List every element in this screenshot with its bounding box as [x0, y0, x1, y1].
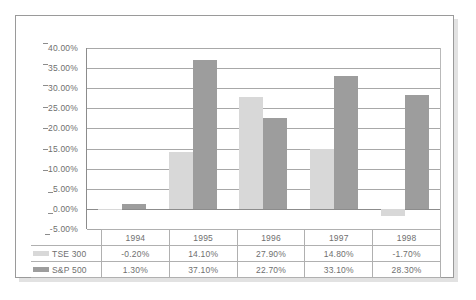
legend-swatch-icon [33, 251, 49, 256]
y-axis-tick-label: 40.00% [48, 43, 78, 53]
plot-area [86, 48, 441, 229]
bar-1995-s-p-500 [193, 60, 217, 209]
bar-group-1994 [87, 48, 158, 229]
table-cell-value: 37.10% [169, 262, 237, 278]
y-axis-tick [43, 170, 48, 171]
y-axis-tick-label: 20.00% [48, 123, 78, 133]
table-cell-value: 14.10% [169, 246, 237, 262]
y-axis-tick-label: 0.00% [53, 204, 78, 214]
table-header-1998: 1998 [373, 230, 441, 246]
bar-1995-tse-300 [169, 152, 193, 209]
table-cell-value: 27.90% [237, 246, 305, 262]
data-table: 19941995199619971998 TSE 300 -0.20%14.10… [31, 229, 441, 278]
y-axis-tick [48, 192, 53, 193]
bar-group-1998 [369, 48, 440, 229]
y-axis-tick-label: 30.00% [48, 83, 78, 93]
bar-1994-s-p-500 [122, 204, 146, 209]
table-cell-value: 14.80% [305, 246, 373, 262]
bar-group-1995 [158, 48, 229, 229]
y-axis-tick [43, 64, 48, 65]
y-axis-tick [43, 107, 48, 108]
table-row: S&P 500 1.30%37.10%22.70%33.10%28.30% [31, 262, 441, 278]
table-cell-value: 28.30% [373, 262, 441, 278]
legend-label-series1: S&P 500 [52, 265, 87, 275]
y-axis-tick [43, 85, 48, 86]
table-header-1996: 1996 [237, 230, 305, 246]
y-axis-tick-label: 5.00% [53, 184, 78, 194]
table-cell-value: 33.10% [305, 262, 373, 278]
y-axis-tick [43, 149, 48, 150]
legend-item-series0: TSE 300 [31, 246, 102, 262]
table-cell-value: 22.70% [237, 262, 305, 278]
chart-screenshot: 40.00%35.00%30.00%25.00%20.00%15.00%10.0… [0, 0, 476, 300]
bar-group-1997 [299, 48, 370, 229]
y-axis-tick [48, 213, 53, 214]
bar-1996-tse-300 [239, 97, 263, 209]
table-header-1997: 1997 [305, 230, 373, 246]
legend-item-series1: S&P 500 [31, 262, 102, 278]
plot-wrapper: 40.00%35.00%30.00%25.00%20.00%15.00%10.0… [86, 48, 441, 229]
y-axis-tick-label: 35.00% [48, 63, 78, 73]
table-row-years: 19941995199619971998 [31, 230, 441, 246]
y-axis-tick [43, 128, 48, 129]
bar-1997-s-p-500 [334, 76, 358, 209]
y-axis-tick-label: 10.00% [48, 164, 78, 174]
table-cell-value: -0.20% [102, 246, 170, 262]
bar-1996-s-p-500 [263, 118, 287, 209]
table-header-1995: 1995 [169, 230, 237, 246]
bar-1998-s-p-500 [405, 95, 429, 209]
chart-frame: 40.00%35.00%30.00%25.00%20.00%15.00%10.0… [15, 15, 454, 278]
bar-1998-tse-300 [381, 209, 405, 216]
y-axis-tick-label: 15.00% [48, 144, 78, 154]
bar-group-1996 [228, 48, 299, 229]
y-axis-tick-label: 25.00% [48, 103, 78, 113]
table-row: TSE 300 -0.20%14.10%27.90%14.80%-1.70% [31, 246, 441, 262]
table-header-1994: 1994 [102, 230, 170, 246]
legend-swatch-icon [33, 267, 49, 272]
bar-1997-tse-300 [310, 149, 334, 209]
table-cell-value: -1.70% [373, 246, 441, 262]
bars-layer [87, 48, 440, 229]
table-cell-value: 1.30% [102, 262, 170, 278]
bar-1994-tse-300 [98, 209, 122, 210]
table-corner-cell [31, 230, 102, 246]
y-axis-tick [43, 43, 48, 44]
legend-label-series0: TSE 300 [52, 249, 86, 259]
